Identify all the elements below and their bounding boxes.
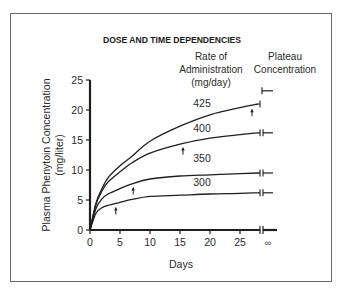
y-axis-label-line1: Plasma Phenytoin Concentration — [40, 78, 52, 231]
series-label-400: 400 — [193, 122, 211, 134]
y-axis-label-line2: (mg/liter) — [53, 134, 65, 175]
legend-plateau-header-1: Plateau — [268, 51, 302, 62]
curve-425 — [90, 104, 258, 230]
curves: 425400350300 — [90, 87, 273, 230]
chart-title: DOSE AND TIME DEPENDENCIES — [103, 35, 241, 45]
curve-300 — [90, 193, 258, 230]
y-tick-label: 0 — [77, 224, 83, 236]
x-tick-label: 0 — [87, 236, 93, 248]
y-tick-label: 20 — [71, 104, 83, 116]
y-tick-label: 5 — [77, 194, 83, 206]
legend-plateau-header-2: Concentration — [254, 64, 316, 75]
series-label-425: 425 — [193, 97, 211, 109]
curve-400 — [90, 133, 258, 230]
legend-rate-header-1: Rate of — [195, 51, 227, 62]
arrow-head-icon — [114, 207, 118, 210]
x-tick-label: 20 — [204, 236, 216, 248]
x-tick-label: 25 — [234, 236, 246, 248]
arrow-head-icon — [181, 148, 185, 151]
series-label-350: 350 — [193, 152, 211, 164]
chart: DOSE AND TIME DEPENDENCIES Rate of Admin… — [0, 0, 344, 300]
legend-rate-header-3: (mg/day) — [191, 77, 230, 88]
y-tick-label: 10 — [71, 164, 83, 176]
curve-350 — [90, 173, 258, 230]
x-tick-label: 10 — [144, 236, 156, 248]
axes: 05101520250510152025∞ — [71, 74, 277, 249]
y-tick-label: 25 — [71, 74, 83, 86]
arrow-head-icon — [131, 187, 135, 190]
y-axis-label: Plasma Phenytoin Concentration (mg/liter… — [40, 78, 65, 231]
x-tick-label: 5 — [117, 236, 123, 248]
arrow-head-icon — [250, 109, 254, 112]
x-tick-label-infinity: ∞ — [265, 238, 271, 248]
x-tick-label: 15 — [174, 236, 186, 248]
legend-rate-header-2: Administration — [179, 64, 242, 75]
x-axis-label: Days — [169, 258, 193, 270]
series-label-300: 300 — [193, 176, 211, 188]
y-tick-label: 15 — [71, 134, 83, 146]
